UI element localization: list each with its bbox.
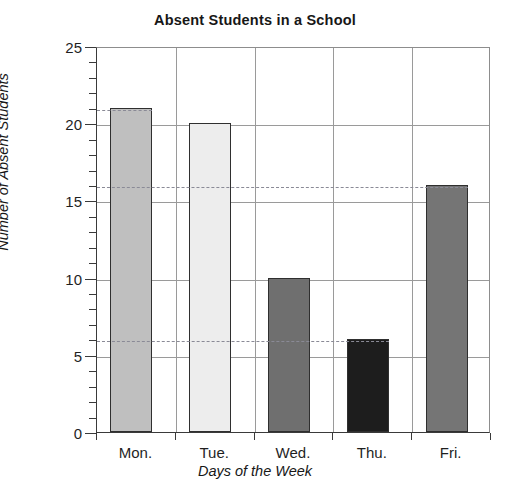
x-tick: [96, 433, 97, 440]
y-tick-major: [85, 201, 96, 202]
y-axis-tick-label: 20: [30, 116, 82, 133]
y-tick-minor: [89, 340, 96, 341]
gridline-horizontal: [97, 125, 489, 126]
plot-area: [96, 47, 490, 433]
x-tick: [254, 433, 255, 440]
y-tick-minor: [89, 371, 96, 372]
y-tick-minor: [89, 325, 96, 326]
bar-thu: [347, 339, 389, 432]
dashed-guide-line: [97, 341, 389, 342]
y-tick-minor: [89, 140, 96, 141]
y-tick-minor: [89, 263, 96, 264]
y-tick-minor: [89, 217, 96, 218]
gridline-vertical: [412, 48, 413, 432]
y-tick-minor: [89, 402, 96, 403]
y-axis-tick-label: 0: [30, 425, 82, 442]
gridline-vertical: [176, 48, 177, 432]
y-tick-minor: [89, 171, 96, 172]
y-axis-tick-label: 10: [30, 270, 82, 287]
y-tick-major: [85, 279, 96, 280]
y-tick-minor: [89, 248, 96, 249]
x-axis-title: Days of the Week: [0, 463, 510, 479]
x-tick: [332, 433, 333, 440]
x-axis-tick-label: Fri.: [411, 444, 490, 461]
gridline-vertical: [255, 48, 256, 432]
y-axis-title: Number of Absent Students: [0, 17, 11, 307]
dashed-guide-line: [97, 187, 468, 188]
y-tick-minor: [89, 294, 96, 295]
y-axis-tick-label: 5: [30, 347, 82, 364]
y-tick-minor: [89, 155, 96, 156]
bar-wed: [268, 278, 310, 432]
y-tick-minor: [89, 186, 96, 187]
y-tick-major: [85, 47, 96, 48]
y-tick-minor: [89, 62, 96, 63]
dashed-guide-line: [97, 110, 152, 111]
x-axis-tick-label: Mon.: [96, 444, 175, 461]
bar-tue: [189, 123, 231, 432]
y-axis-tick-label: 15: [30, 193, 82, 210]
gridline-vertical: [333, 48, 334, 432]
y-tick-major: [85, 356, 96, 357]
y-tick-minor: [89, 309, 96, 310]
x-tick: [411, 433, 412, 440]
x-axis-tick-label: Thu.: [332, 444, 411, 461]
x-tick: [490, 433, 491, 440]
x-tick: [175, 433, 176, 440]
y-tick-minor: [89, 418, 96, 419]
y-axis-tick-label: 25: [30, 39, 82, 56]
bar-fri: [426, 185, 468, 432]
y-tick-minor: [89, 232, 96, 233]
y-tick-minor: [89, 78, 96, 79]
y-tick-minor: [89, 93, 96, 94]
x-axis-tick-label: Tue.: [175, 444, 254, 461]
y-tick-minor: [89, 387, 96, 388]
y-tick-major: [85, 124, 96, 125]
y-tick-major: [85, 433, 96, 434]
page-title: Absent Students in a School: [0, 12, 510, 28]
x-axis-tick-label: Wed.: [254, 444, 333, 461]
bar-mon: [110, 108, 152, 432]
y-tick-minor: [89, 109, 96, 110]
